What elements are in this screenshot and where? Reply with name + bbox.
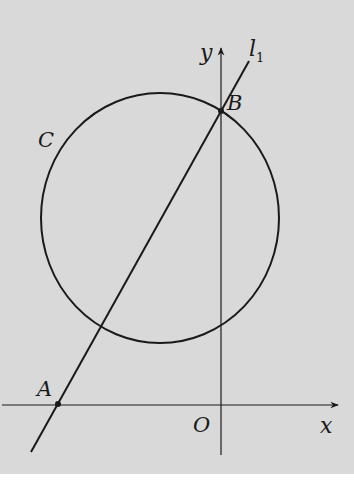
label-b: B xyxy=(226,91,242,115)
label-x-axis: x xyxy=(320,413,333,438)
point-b xyxy=(218,108,224,114)
label-y-axis: y xyxy=(199,40,213,65)
label-origin: O xyxy=(193,413,210,437)
label-l1-main: l xyxy=(249,36,256,61)
point-a xyxy=(55,401,61,407)
label-l1-subscript: 1 xyxy=(256,50,264,65)
label-l1: l1 xyxy=(249,36,264,65)
line-l1 xyxy=(31,61,249,452)
label-c: C xyxy=(38,128,54,152)
geometry-figure: y l1 B C A O x xyxy=(0,0,354,485)
label-a: A xyxy=(35,377,52,401)
circle-c xyxy=(41,93,279,343)
